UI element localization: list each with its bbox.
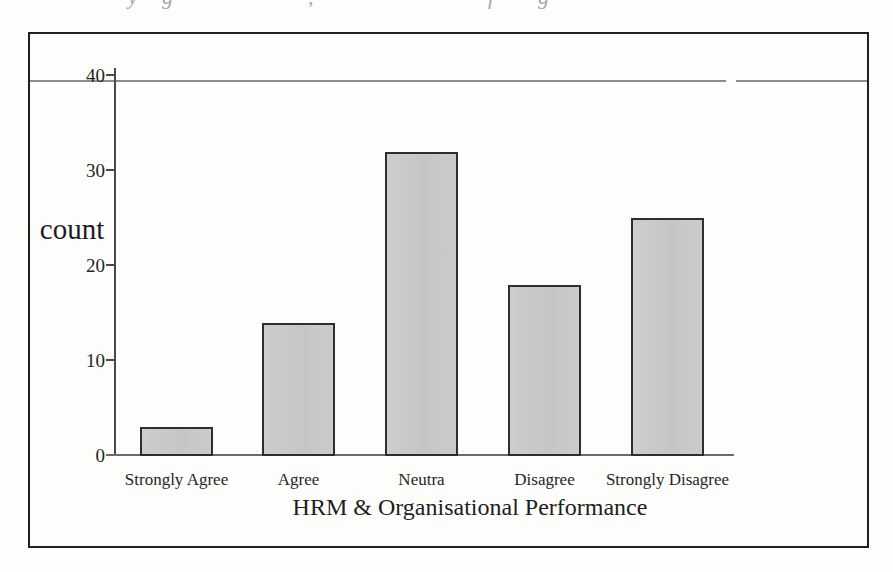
cropped-text-remnants: yg,fg: [0, 0, 893, 10]
cropped-glyph-0: y: [128, 0, 138, 10]
cropped-glyph-2: ,: [308, 0, 314, 10]
bar-disagree: [508, 285, 581, 456]
x-axis-title: HRM & Organisational Performance: [268, 494, 672, 521]
cropped-glyph-3: f: [488, 0, 494, 10]
figure-frame: count 010203040 Strongly AgreeAgreeNeutr…: [28, 32, 869, 548]
bar-agree: [262, 323, 335, 456]
top-gridline-40: [30, 80, 867, 82]
y-tick-mark-40: [106, 74, 115, 76]
cropped-glyph-4: g: [538, 0, 549, 10]
bar-strongly-agree: [140, 427, 213, 456]
x-category-label-strongly-disagree: Strongly Disagree: [593, 470, 743, 489]
top-gridline-gap: [726, 79, 736, 83]
y-tick-mark-20: [106, 264, 115, 266]
y-tick-mark-30: [106, 169, 115, 171]
scanned-page: yg,fg count 010203040 Strongly AgreeAgre…: [0, 0, 893, 572]
y-tick-mark-10: [106, 359, 115, 361]
bar-neutra: [385, 152, 458, 456]
bar-strongly-disagree: [631, 218, 704, 456]
y-tick-label-40: 40: [60, 65, 105, 86]
y-tick-label-10: 10: [60, 350, 105, 371]
y-tick-label-20: 20: [60, 255, 105, 276]
cropped-glyph-1: g: [162, 0, 173, 10]
y-tick-label-30: 30: [60, 160, 105, 181]
y-tick-label-0: 0: [60, 445, 105, 466]
y-axis-title: count: [36, 214, 108, 245]
y-axis-line: [114, 68, 116, 456]
